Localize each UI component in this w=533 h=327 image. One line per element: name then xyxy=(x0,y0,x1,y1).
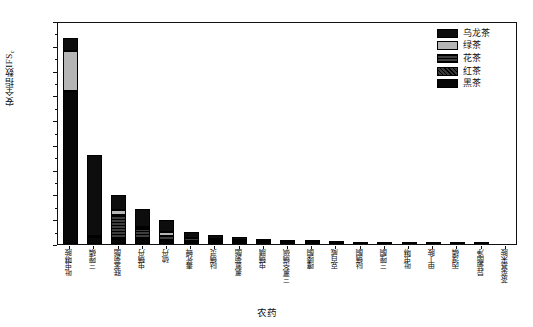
x-axis-title: 农药 xyxy=(0,305,533,319)
bar-segment xyxy=(63,51,78,91)
x-axis-tick-label: 异菊酯净 xyxy=(477,250,484,277)
legend-label: 花茶 xyxy=(463,54,481,63)
x-axis-tick-mark xyxy=(118,246,119,249)
x-axis-tick-label: 虫螨腈 xyxy=(259,250,266,270)
x-axis-tick-label: 联苯菊酯 xyxy=(114,250,121,277)
bar-segment xyxy=(232,237,247,240)
x-axis-tick-mark xyxy=(287,246,288,249)
legend-swatch xyxy=(437,67,458,76)
x-axis-tick-mark xyxy=(214,246,215,249)
chart-legend: 乌龙茶绿茶花茶红茶黑茶 xyxy=(437,27,513,90)
x-axis-tick-label: 三氯杀螨砜 xyxy=(283,250,290,284)
bar xyxy=(159,21,174,244)
bar xyxy=(135,21,150,244)
legend-label: 绿茶 xyxy=(463,41,481,50)
bar xyxy=(256,21,271,244)
x-axis-tick-label: 茶菜基米胺 xyxy=(501,250,508,284)
x-axis-tick-mark xyxy=(384,246,385,249)
x-axis-tick-mark xyxy=(142,246,143,249)
x-axis-tick-mark xyxy=(311,246,312,249)
x-axis-tick-mark xyxy=(190,246,191,249)
bar xyxy=(280,21,295,244)
legend-swatch xyxy=(437,29,458,38)
bar-segment xyxy=(63,38,78,51)
bar xyxy=(353,21,368,244)
bar-segment xyxy=(232,241,247,243)
x-axis-tick-mark xyxy=(360,246,361,249)
bar-segment xyxy=(159,220,174,232)
bar-segment xyxy=(256,239,271,241)
bar-segment xyxy=(159,232,174,236)
bar xyxy=(111,21,126,244)
x-axis-tick-mark xyxy=(93,246,94,249)
legend-swatch xyxy=(437,54,458,63)
x-axis-tick-mark xyxy=(481,246,482,249)
legend-item: 绿茶 xyxy=(437,40,513,53)
bar-segment xyxy=(208,242,223,244)
bar xyxy=(377,21,392,244)
bar-segment xyxy=(474,242,489,244)
legend-label: 乌龙茶 xyxy=(463,29,490,38)
bar-segment xyxy=(135,209,150,227)
bar xyxy=(232,21,247,244)
x-axis-tick-label: 噻嗪酮 xyxy=(307,250,314,270)
bar-segment xyxy=(111,215,126,239)
bar-segment xyxy=(305,240,320,242)
legend-item: 黑茶 xyxy=(437,77,513,90)
bar-segment xyxy=(329,241,344,243)
x-axis-tick-mark xyxy=(505,246,506,249)
bar-segment xyxy=(450,242,465,244)
bar-segment xyxy=(208,235,223,239)
bar-segment xyxy=(184,232,199,238)
bar-segment xyxy=(402,242,417,244)
bar-segment xyxy=(135,229,150,240)
bar-segment xyxy=(426,242,441,244)
x-axis-tick-mark xyxy=(263,246,264,249)
bar-segment xyxy=(111,210,126,215)
x-axis-tick-label: 虫螨丹 xyxy=(138,250,145,270)
x-axis-tick-label: 三唑酮 xyxy=(380,250,387,270)
x-axis-tick-label: 哒螨酮 xyxy=(356,250,363,270)
chart-figure: 安全指数IFSc 0.0000.0010.0020.0030.0040.0050… xyxy=(0,0,533,327)
x-axis: 吡虫啉胺三唑磷联苯菊酯虫螨丹硫丹毒死蜱哒螨灵氯氰菊酯虫螨腈三氯杀螨砜噻嗪酮克百威… xyxy=(57,246,517,306)
bar-segment xyxy=(87,237,102,244)
bar-segment xyxy=(63,91,78,244)
bar-segment xyxy=(184,238,199,242)
x-axis-tick-label: 吡虫啉 xyxy=(404,250,411,270)
bar-segment xyxy=(159,236,174,241)
bar-segment xyxy=(280,240,295,242)
bar-segment xyxy=(159,241,174,244)
y-axis: 0.0000.0010.0020.0030.0040.0050.0060.007… xyxy=(0,0,57,246)
legend-label: 黑茶 xyxy=(463,79,481,88)
legend-item: 乌龙茶 xyxy=(437,27,513,40)
bar-segment xyxy=(135,239,150,244)
x-axis-tick-label: 吡虫啉胺 xyxy=(65,250,72,277)
legend-swatch xyxy=(437,79,458,88)
bar-segment xyxy=(111,195,126,210)
x-axis-tick-mark xyxy=(456,246,457,249)
x-axis-tick-label: 氯氰菊酯 xyxy=(235,250,242,277)
x-axis-tick-label: 丙溴磷 xyxy=(452,250,459,270)
bar-segment xyxy=(377,242,392,244)
bar xyxy=(87,21,102,244)
bar xyxy=(208,21,223,244)
x-axis-tick-label: 三唑磷 xyxy=(89,250,96,270)
bar-segment xyxy=(208,239,223,242)
legend-item: 花茶 xyxy=(437,52,513,65)
x-axis-tick-label: 甲丁胺 xyxy=(428,250,435,270)
bar xyxy=(184,21,199,244)
x-axis-tick-mark xyxy=(239,246,240,249)
x-axis-tick-mark xyxy=(408,246,409,249)
bar-segment xyxy=(111,239,126,244)
bar xyxy=(402,21,417,244)
legend-label: 红茶 xyxy=(463,67,481,76)
x-axis-tick-mark xyxy=(432,246,433,249)
x-axis-tick-label: 克百威 xyxy=(331,250,338,270)
bar-segment xyxy=(87,155,102,236)
x-axis-tick-mark xyxy=(335,246,336,249)
x-axis-tick-label: 毒死蜱 xyxy=(186,250,193,270)
x-axis-tick-label: 哒螨灵 xyxy=(210,250,217,270)
legend-swatch xyxy=(437,41,458,50)
bar xyxy=(329,21,344,244)
bar-segment xyxy=(353,242,368,244)
